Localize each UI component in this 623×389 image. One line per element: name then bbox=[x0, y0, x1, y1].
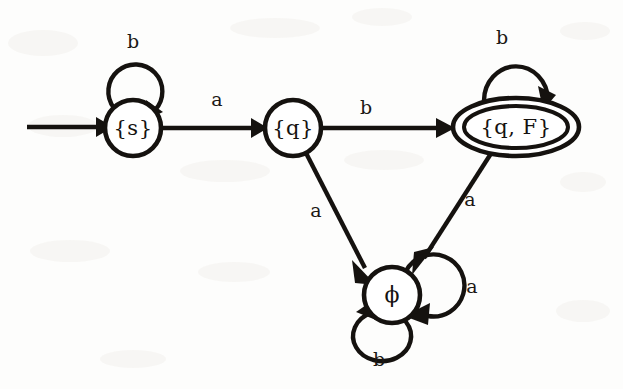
start-arrow bbox=[27, 117, 113, 137]
state-q-label: {q} bbox=[272, 116, 314, 140]
label-loop-s-b: b bbox=[127, 30, 139, 52]
state-s[interactable]: {s} bbox=[105, 100, 161, 156]
label-loop-qF-b: b bbox=[496, 26, 508, 48]
label-loop-phi-a: a bbox=[466, 275, 477, 297]
edge-s-to-q bbox=[161, 118, 268, 138]
label-edge-s-q-a: a bbox=[211, 88, 222, 110]
state-qF[interactable]: {q, F} bbox=[453, 98, 579, 156]
state-diagram: {s} {q} {q, F} ϕ b a b b a a a b bbox=[0, 0, 623, 389]
state-qF-label: {q, F} bbox=[480, 115, 551, 139]
state-s-label: {s} bbox=[114, 116, 153, 140]
label-edge-q-qF-b: b bbox=[360, 96, 372, 118]
state-phi[interactable]: ϕ bbox=[364, 267, 420, 323]
label-loop-phi-b: b bbox=[373, 348, 385, 370]
state-q[interactable]: {q} bbox=[265, 100, 321, 156]
state-phi-label: ϕ bbox=[385, 282, 400, 307]
label-edge-qF-phi-a: a bbox=[464, 188, 475, 210]
diagram-canvas: {s} {q} {q, F} ϕ b a b b a a a b bbox=[0, 0, 623, 389]
label-edge-q-phi-a: a bbox=[310, 199, 321, 221]
edge-q-to-qF bbox=[321, 118, 455, 138]
